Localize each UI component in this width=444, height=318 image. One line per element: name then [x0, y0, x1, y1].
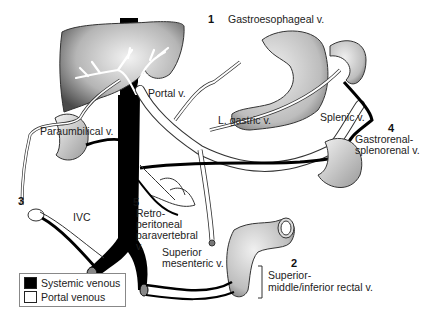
number-2: 2	[291, 257, 297, 269]
label-rectal-2: middle/inferior rectal v.	[268, 282, 373, 293]
number-3: 3	[18, 195, 24, 207]
label-portal-vein: Portal v.	[148, 88, 186, 99]
legend-label-systemic: Systemic venous	[41, 277, 120, 289]
label-paraumbilical: Paraumbilical v.	[40, 126, 113, 137]
label-rectal-1: Superior-	[268, 270, 311, 281]
legend: Systemic venous Portal venous	[19, 273, 126, 307]
label-ivc: IVC	[73, 212, 91, 223]
label-retro-4: v.	[136, 241, 143, 252]
spleen	[330, 41, 366, 84]
label-gastroesophageal: Gastroesophageal v.	[228, 14, 324, 25]
label-superior-mesenteric-2: mesenteric v.	[162, 258, 224, 269]
legend-item-systemic: Systemic venous	[24, 277, 120, 289]
portal-swatch-icon	[24, 291, 37, 303]
legend-item-portal: Portal venous	[24, 291, 105, 303]
label-splenic: Splenic v.	[320, 112, 365, 123]
legend-label-portal: Portal venous	[41, 291, 105, 303]
label-l-gastric: L. gastric v.	[218, 115, 271, 126]
label-gastrorenal-2: splenorenal v.	[355, 145, 420, 156]
label-retro-3: paravertebral	[136, 230, 198, 241]
systemic-swatch-icon	[24, 277, 37, 289]
portosystemic-diagram	[0, 0, 444, 318]
number-1: 1	[208, 13, 214, 25]
